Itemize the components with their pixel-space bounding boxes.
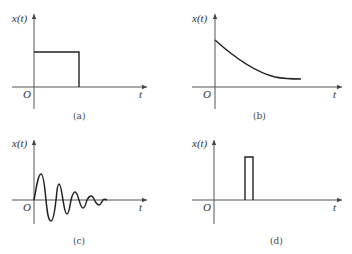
y-label: x(t)	[11, 12, 28, 25]
origin-label: O	[203, 88, 211, 100]
caption: (c)	[73, 236, 85, 246]
origin-label: O	[23, 88, 31, 100]
x-label: t	[139, 201, 143, 213]
panel-a: x(t) O t (a)	[11, 12, 147, 121]
exp-decay-curve	[215, 40, 301, 79]
rect-pulse	[34, 52, 79, 87]
panel-b: x(t) O t (b)	[191, 12, 342, 121]
x-label: t	[333, 201, 337, 213]
panel-c: x(t) O t (c)	[11, 137, 147, 246]
x-label: t	[139, 88, 143, 100]
origin-label: O	[203, 201, 211, 213]
caption: (a)	[73, 111, 85, 121]
y-label: x(t)	[11, 137, 28, 150]
origin-label: O	[23, 201, 31, 213]
narrow-pulse	[245, 157, 253, 200]
y-label: x(t)	[191, 137, 208, 150]
caption: (b)	[253, 111, 266, 121]
x-label: t	[333, 88, 337, 100]
panel-d: x(t) O t (d)	[191, 137, 342, 246]
y-label: x(t)	[191, 12, 208, 25]
caption: (d)	[270, 236, 283, 246]
signal-figure: x(t) O t (a) x(t) O t (b) x(t) O t (c) x…	[0, 0, 352, 254]
damped-oscillation-curve	[34, 174, 107, 221]
